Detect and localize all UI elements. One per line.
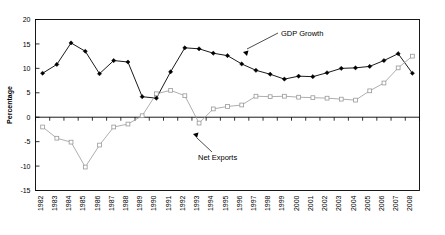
- y-tick-label: 15: [23, 41, 31, 48]
- data-point: [83, 165, 87, 169]
- data-point: [41, 125, 45, 129]
- data-point: [254, 94, 258, 98]
- data-point: [197, 121, 201, 125]
- data-point: [55, 136, 59, 140]
- data-point: [368, 89, 372, 93]
- x-tick-label: 2006: [378, 195, 385, 211]
- y-tick-label: 20: [23, 16, 31, 23]
- x-tick-label: 1989: [136, 195, 143, 211]
- y-tick-label: 0: [27, 114, 31, 121]
- y-tick-label: -10: [20, 163, 30, 170]
- y-axis-label: Percentage: [6, 86, 14, 124]
- x-tick-label: 1993: [193, 195, 200, 211]
- data-point: [140, 114, 144, 118]
- data-point: [126, 122, 130, 126]
- data-point: [410, 54, 414, 58]
- data-point: [396, 66, 400, 70]
- x-tick-label: 1994: [207, 195, 214, 211]
- data-point: [382, 81, 386, 85]
- x-tick-label: 1999: [278, 195, 285, 211]
- x-tick-label: 2003: [335, 195, 342, 211]
- data-point: [169, 88, 173, 92]
- x-tick-label: 1991: [165, 195, 172, 211]
- data-point: [154, 92, 158, 96]
- x-tick-label: 1982: [37, 195, 44, 211]
- x-tick-label: 2001: [307, 195, 314, 211]
- data-point: [354, 98, 358, 102]
- data-point: [112, 125, 116, 129]
- x-tick-label: 2000: [293, 195, 300, 211]
- data-point: [311, 96, 315, 100]
- data-point: [339, 97, 343, 101]
- x-tick-label: 1987: [108, 195, 115, 211]
- y-tick-label: -15: [20, 187, 30, 194]
- x-tick-label: 2002: [321, 195, 328, 211]
- x-tick-label: 1997: [250, 195, 257, 211]
- data-point: [297, 95, 301, 99]
- x-tick-label: 2007: [392, 195, 399, 211]
- x-tick-label: 2004: [350, 195, 357, 211]
- x-tick-label: 1996: [236, 195, 243, 211]
- x-tick-label: 1998: [264, 195, 271, 211]
- y-tick-label: -5: [24, 138, 30, 145]
- x-tick-label: 1983: [51, 195, 58, 211]
- annotation-label-gdp-growth: GDP Growth: [281, 29, 323, 38]
- y-tick-label: 5: [27, 89, 31, 96]
- data-point: [211, 107, 215, 111]
- x-axis-tick-labels: 1982198319841985198619871988198919901991…: [37, 195, 414, 211]
- x-tick-label: 1988: [122, 195, 129, 211]
- data-point: [325, 96, 329, 100]
- annotation-label-net-exports: Net Exports: [198, 153, 237, 162]
- data-point: [98, 143, 102, 147]
- data-point: [240, 103, 244, 107]
- data-point: [69, 140, 73, 144]
- chart-container: 20151050-5-10-15 19821983198419851986198…: [0, 0, 445, 235]
- x-tick-label: 2005: [364, 195, 371, 211]
- x-tick-label: 1984: [65, 195, 72, 211]
- x-tick-label: 2008: [406, 195, 413, 211]
- x-tick-label: 1986: [94, 195, 101, 211]
- y-tick-label: 10: [23, 65, 31, 72]
- data-point: [268, 95, 272, 99]
- x-tick-label: 1990: [150, 195, 157, 211]
- data-point: [282, 94, 286, 98]
- x-tick-label: 1995: [222, 195, 229, 211]
- data-point: [183, 94, 187, 98]
- x-tick-label: 1992: [179, 195, 186, 211]
- x-tick-label: 1985: [79, 195, 86, 211]
- y-axis-tick-labels: 20151050-5-10-15: [20, 16, 30, 194]
- data-point: [226, 105, 230, 109]
- line-chart: 20151050-5-10-15 19821983198419851986198…: [0, 0, 445, 235]
